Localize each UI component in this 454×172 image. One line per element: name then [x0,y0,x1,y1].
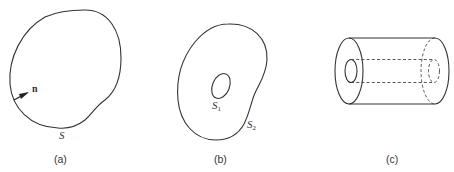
closed-surface-s [10,10,121,128]
cylinder-front-inner-hole [345,60,357,83]
panel-c: (c) [335,38,449,165]
panel-b: S1 S2 (b) [178,24,267,165]
inner-surface-s1 [208,71,234,101]
caption-a: (a) [54,153,67,165]
cylinder-front-outer-face [335,38,363,104]
cylinder-back-inner-hole-hidden [429,60,440,83]
outer-surface-s2 [178,24,267,140]
figure-canvas: n S (a) S1 S2 (b) (c) [0,0,454,172]
cylinder-back-outer-hidden-arc [421,38,435,104]
caption-c: (c) [386,153,398,165]
panel-a: n S (a) [10,10,121,165]
cylinder-back-outer-visible-arc [435,38,449,104]
normal-label: n [32,83,38,94]
outer-surface-label: S2 [247,118,257,132]
caption-b: (b) [214,153,227,165]
surface-label-s: S [59,129,65,141]
normal-vector-arrow-icon [14,92,29,100]
inner-surface-label: S1 [212,99,222,113]
